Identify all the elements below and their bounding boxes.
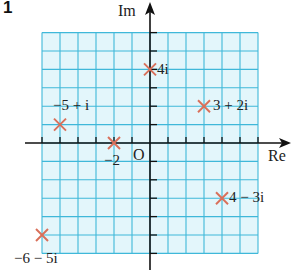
imag-axis-label: Im [118, 2, 136, 20]
argand-diagram: 1 Im Re O 4i 3 + 2i −5 + i −2 4 − 3i −6 … [0, 0, 292, 276]
point-label-4i: 4i [157, 61, 169, 78]
real-axis-label: Re [268, 147, 286, 165]
point-label-minus2: −2 [104, 152, 120, 169]
point-label-4-minus-3i: 4 − 3i [229, 189, 264, 206]
origin-label: O [133, 146, 145, 164]
point-label-minus5-plus-i: −5 + i [53, 97, 89, 114]
complex-plane [0, 0, 292, 276]
point-label-3-plus-2i: 3 + 2i [213, 97, 248, 114]
point-label-minus6-minus-5i: −6 − 5i [14, 250, 58, 267]
